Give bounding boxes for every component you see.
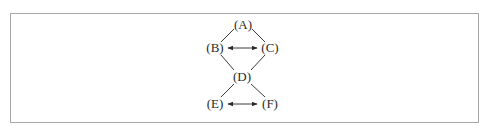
node-f: (F) [262, 97, 278, 111]
edge-b-d [221, 55, 234, 70]
edge-c-d [251, 55, 265, 70]
node-b: (B) [206, 41, 223, 55]
node-e: (E) [207, 97, 224, 111]
node-c: (C) [261, 41, 278, 55]
node-a: (A) [234, 18, 252, 32]
node-d: (D) [233, 70, 251, 84]
